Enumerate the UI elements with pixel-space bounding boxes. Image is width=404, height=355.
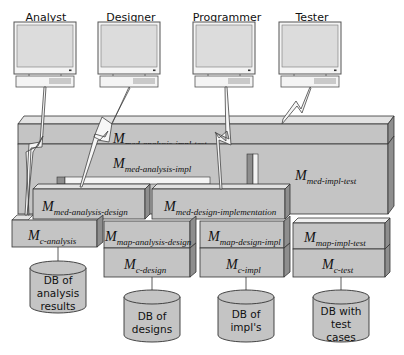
svg-text:DB of: DB of <box>232 308 261 320</box>
svg-text:results: results <box>40 300 75 312</box>
c-design-block: Mc-design <box>104 243 196 277</box>
db-designs: DB of designs <box>124 290 180 342</box>
svg-text:cases: cases <box>326 331 356 343</box>
monitor-icon <box>279 22 341 87</box>
monitor-icon <box>14 22 76 87</box>
c-impl-block: Mc-impl <box>200 243 290 277</box>
db-test-cases: DB with test cases <box>313 290 369 343</box>
analyst-terminal: Analyst <box>14 11 76 87</box>
programmer-terminal: Programmer <box>193 11 262 87</box>
tester-terminal: Tester <box>279 11 341 87</box>
svg-text:DB of: DB of <box>138 310 167 322</box>
svg-text:impl's: impl's <box>230 321 261 333</box>
svg-text:designs: designs <box>132 323 172 335</box>
monitor-icon <box>193 22 255 87</box>
c-test-block: Mc-test <box>293 244 390 277</box>
db-impls: DB of impl's <box>218 290 274 342</box>
map-impl-test-block: Mmap-impl-test <box>293 218 390 249</box>
svg-text:test: test <box>331 318 351 330</box>
med-analysis-design-block: Mmed-analysis-design <box>33 184 150 219</box>
svg-text:analysis: analysis <box>37 287 80 299</box>
svg-text:DB of: DB of <box>44 274 73 286</box>
monitor-icon <box>98 22 160 87</box>
map-design-impl-block: Mmap-design-impl <box>200 216 290 248</box>
designer-terminal: Designer <box>98 11 160 87</box>
db-analysis-results: DB of analysis results <box>30 261 86 313</box>
svg-text:DB with: DB with <box>321 305 362 317</box>
map-analysis-design-block: Mmap-analysis-design <box>104 216 196 248</box>
c-analysis-block: Mc-analysis <box>12 215 103 247</box>
